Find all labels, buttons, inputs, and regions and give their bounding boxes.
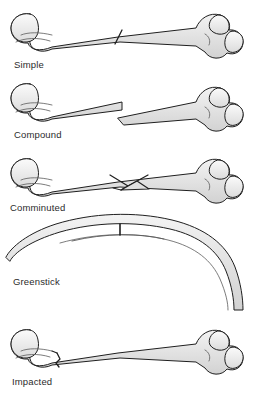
fracture-label-compound: Compound [14, 130, 62, 140]
bone-greenstick-fracture-icon [0, 213, 253, 313]
fracture-panel-greenstick [0, 213, 253, 313]
fracture-label-impacted: Impacted [12, 377, 52, 387]
fracture-label-greenstick: Greenstick [13, 277, 60, 287]
fracture-label-simple: Simple [14, 60, 44, 70]
fracture-label-comminuted: Comminuted [10, 203, 65, 213]
